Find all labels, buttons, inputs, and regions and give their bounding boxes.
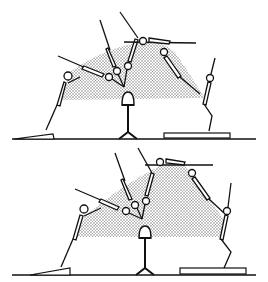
vault-diagram-bottom xyxy=(0,141,268,282)
springboard xyxy=(14,134,54,139)
springboard xyxy=(30,268,70,275)
vault-diagram-top xyxy=(0,0,268,141)
gymnast-flight xyxy=(145,159,213,166)
landing-mat xyxy=(164,133,230,138)
vault-sequence-bottom xyxy=(0,141,268,282)
landing-mat xyxy=(180,268,246,274)
vault-sequence-top xyxy=(0,0,268,141)
gymnast-landing xyxy=(203,58,215,131)
vault-apparatus xyxy=(136,226,154,275)
